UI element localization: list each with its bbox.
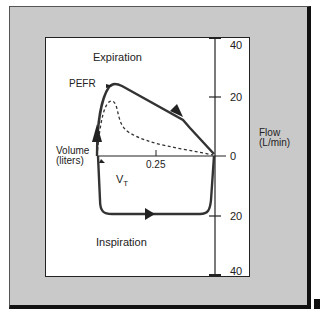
flow-unit-label: (L/min) xyxy=(259,138,290,148)
y-tick-20-top: 20 xyxy=(230,92,242,103)
vt-subscript: T xyxy=(123,179,128,188)
expiration-label: Expiration xyxy=(93,52,142,63)
flow-volume-plot xyxy=(0,0,320,312)
pefr-label: PEFR xyxy=(69,79,96,89)
y-tick-20-bottom: 20 xyxy=(230,211,242,222)
inspiration-label: Inspiration xyxy=(96,237,147,248)
y-tick-0: 0 xyxy=(230,151,236,162)
y-tick-40-bottom: 40 xyxy=(230,266,242,277)
x-tick-label: 0.25 xyxy=(146,160,165,170)
y-tick-40-top: 40 xyxy=(230,40,242,51)
vt-label: VT xyxy=(116,174,128,188)
volume-unit-label: (liters) xyxy=(56,156,84,166)
